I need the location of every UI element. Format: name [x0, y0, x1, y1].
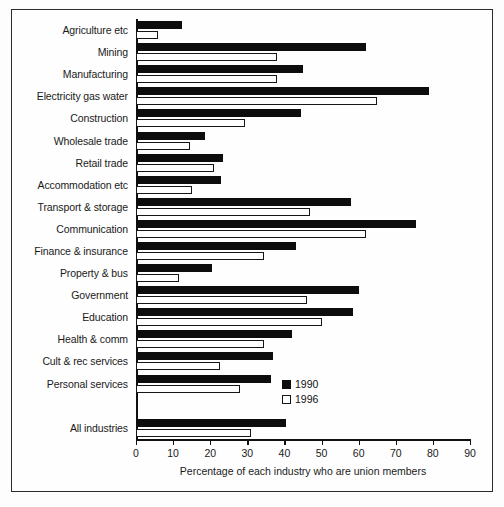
bar-1996	[136, 186, 192, 194]
category-label: Government	[12, 284, 134, 306]
bar-group	[136, 196, 470, 218]
axis-tick-label: 80	[427, 447, 439, 459]
category-label: Property & bus	[12, 262, 134, 284]
axis-tick	[173, 439, 174, 445]
bar-group	[136, 350, 470, 372]
bar-1996	[136, 75, 277, 83]
category-label: Health & comm	[12, 328, 134, 350]
bar-1996	[136, 274, 179, 282]
legend-item-1990: 1990	[282, 378, 318, 390]
category-label: Manufacturing	[12, 63, 134, 85]
bar-1996	[136, 230, 366, 238]
axis-tick	[433, 439, 434, 445]
axis-tick	[396, 439, 397, 445]
bar-1996	[136, 252, 264, 260]
bar-1990	[136, 264, 212, 272]
category-label: Agriculture etc	[12, 19, 134, 41]
axis-tick	[322, 439, 323, 445]
value-axis-rule	[136, 439, 470, 441]
axis-tick-label: 30	[241, 447, 253, 459]
category-axis-labels: Agriculture etcMiningManufacturingElectr…	[12, 19, 134, 439]
bar-1990	[136, 43, 366, 51]
bar-1996	[136, 53, 277, 61]
axis-tick-label: 90	[464, 447, 476, 459]
axis-tick	[247, 439, 248, 445]
bar-group	[136, 85, 470, 107]
bar-1990	[136, 419, 286, 427]
bar-1990	[136, 242, 296, 250]
bar-group	[136, 129, 470, 151]
bar-groups	[136, 19, 470, 439]
bar-1990	[136, 154, 223, 162]
bar-1990	[136, 176, 221, 184]
axis-tick-label: 20	[204, 447, 216, 459]
category-label: Electricity gas water	[12, 85, 134, 107]
legend-label-1996: 1996	[295, 393, 318, 405]
value-axis: 0102030405060708090	[136, 439, 470, 447]
value-axis-title: Percentage of each industry who are unio…	[136, 465, 470, 477]
axis-tick-label: 10	[167, 447, 179, 459]
bar-group	[136, 240, 470, 262]
bar-1990	[136, 198, 351, 206]
bar-1996	[136, 31, 158, 39]
bar-1996	[136, 164, 214, 172]
bar-1990	[136, 87, 429, 95]
category-label: Construction	[12, 107, 134, 129]
bar-1990	[136, 220, 416, 228]
legend-swatch-filled-square-icon	[282, 380, 291, 389]
bar-group	[136, 306, 470, 328]
category-label: Accommodation etc	[12, 174, 134, 196]
bar-spacer	[136, 272, 470, 274]
bar-group	[136, 218, 470, 240]
bar-group	[136, 152, 470, 174]
bar-1996	[136, 119, 245, 127]
bar-1990	[136, 308, 353, 316]
chart-frame-border: Agriculture etcMiningManufacturingElectr…	[11, 9, 493, 492]
category-label: Transport & storage	[12, 196, 134, 218]
plot-area	[136, 19, 470, 439]
axis-tick	[136, 439, 137, 445]
category-label: Finance & insurance	[12, 240, 134, 262]
category-label: Communication	[12, 218, 134, 240]
bar-1996	[136, 97, 377, 105]
axis-tick	[359, 439, 360, 445]
bar-1990	[136, 330, 292, 338]
category-label: Retail trade	[12, 152, 134, 174]
category-label: Cult & rec services	[12, 350, 134, 372]
bar-group	[136, 328, 470, 350]
axis-tick	[210, 439, 211, 445]
bar-group	[136, 417, 470, 439]
chart-figure: Agriculture etcMiningManufacturingElectr…	[0, 0, 504, 507]
bar-1996	[136, 142, 190, 150]
bar-group	[136, 262, 470, 284]
axis-tick	[470, 439, 471, 445]
bar-1996	[136, 318, 322, 326]
bar-1990	[136, 21, 182, 29]
bar-1996	[136, 362, 220, 370]
bar-group	[136, 41, 470, 63]
category-label: All industries	[12, 417, 134, 439]
category-label: Wholesale trade	[12, 129, 134, 151]
bar-1996	[136, 340, 264, 348]
category-label-spacer	[12, 395, 134, 417]
bar-1996	[136, 385, 240, 393]
bar-1996	[136, 208, 310, 216]
category-label: Education	[12, 306, 134, 328]
bar-1990	[136, 132, 205, 140]
bar-group	[136, 63, 470, 85]
bar-1990	[136, 65, 303, 73]
axis-tick-label: 0	[133, 447, 139, 459]
axis-tick-label: 40	[279, 447, 291, 459]
legend-label-1990: 1990	[295, 378, 318, 390]
bar-1996	[136, 429, 251, 437]
legend-swatch-outlined-square-icon	[282, 395, 291, 404]
bar-spacer	[136, 29, 470, 31]
bar-group	[136, 284, 470, 306]
category-label: Mining	[12, 41, 134, 63]
bar-1996	[136, 296, 307, 304]
bar-group	[136, 107, 470, 129]
axis-tick	[284, 439, 285, 445]
bar-1990	[136, 109, 301, 117]
bar-group	[136, 19, 470, 41]
legend-item-1996: 1996	[282, 393, 318, 405]
